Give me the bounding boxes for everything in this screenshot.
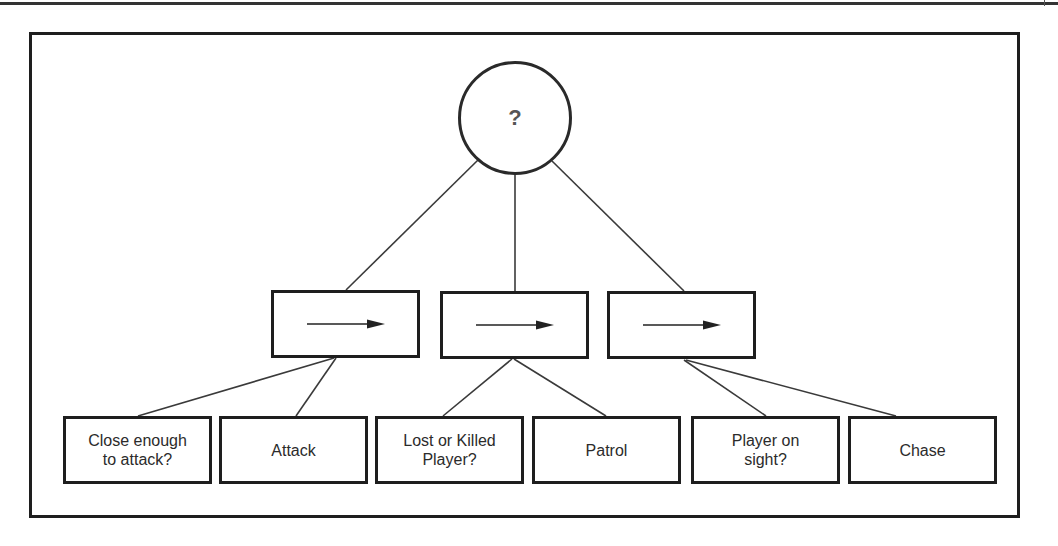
arrow-right-icon xyxy=(643,319,721,331)
arrow-right-icon xyxy=(307,318,385,330)
edge-seq2-leaf3 xyxy=(443,359,512,416)
leaf-condition-close-enough: Close enough to attack? xyxy=(63,416,212,484)
leaf-label: Close enough to attack? xyxy=(88,431,187,469)
edge-seq3-leaf6 xyxy=(686,360,896,416)
leaf-label: Lost or Killed Player? xyxy=(403,431,496,469)
leaf-condition-lost-or-killed: Lost or Killed Player? xyxy=(375,416,524,484)
leaf-label: Attack xyxy=(271,441,315,460)
sequence-node-1 xyxy=(271,290,420,358)
leaf-condition-player-on-sight: Player on sight? xyxy=(691,416,840,484)
leaf-label: Patrol xyxy=(586,441,628,460)
selector-node: ? xyxy=(458,61,572,175)
leaf-action-chase: Chase xyxy=(848,416,997,484)
leaf-action-attack: Attack xyxy=(219,416,368,484)
edge-seq3-leaf5 xyxy=(684,360,766,416)
arrow-right-icon xyxy=(476,319,554,331)
leaf-label: Chase xyxy=(899,441,945,460)
leaf-label: Player on sight? xyxy=(732,431,800,469)
edge-seq2-leaf4 xyxy=(514,359,606,416)
sequence-node-2 xyxy=(440,291,589,359)
leaf-action-patrol: Patrol xyxy=(532,416,681,484)
selector-symbol: ? xyxy=(508,105,521,131)
edge-root-seq1 xyxy=(346,160,478,290)
edge-root-seq3 xyxy=(552,161,684,291)
sequence-node-3 xyxy=(607,291,756,359)
edge-seq1-leaf1 xyxy=(138,358,334,416)
